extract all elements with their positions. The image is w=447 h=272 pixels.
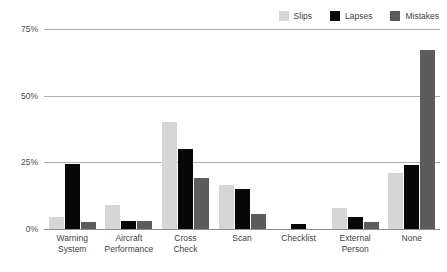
x-axis-label-line2: Performance	[102, 244, 157, 255]
chart-legend: Slips Lapses Mistakes	[279, 11, 439, 21]
y-axis-tick-75: 75%	[21, 24, 38, 34]
plot-area: 75%50%25%0%	[44, 29, 440, 229]
legend-swatch-mistakes	[390, 11, 400, 21]
x-axis-label: Scan	[214, 233, 271, 254]
bar-group	[157, 29, 214, 229]
bar-slips[interactable]	[332, 208, 347, 229]
bar-groups	[44, 29, 440, 229]
bar-lapses[interactable]	[348, 217, 363, 229]
bar-group	[44, 29, 101, 229]
bar-lapses[interactable]	[65, 164, 80, 229]
bar-mistakes[interactable]	[420, 50, 435, 229]
bar-lapses[interactable]	[235, 189, 250, 229]
bar-mistakes[interactable]	[194, 178, 209, 229]
legend-item-slips[interactable]: Slips	[279, 11, 312, 21]
bar-mistakes[interactable]	[251, 214, 266, 229]
bar-group	[327, 29, 384, 229]
bar-lapses[interactable]	[404, 165, 419, 229]
legend-item-lapses[interactable]: Lapses	[330, 11, 372, 21]
x-axis-label-line1: Scan	[215, 233, 270, 244]
x-axis-label-line1: Aircraft	[102, 233, 157, 244]
bar-lapses[interactable]	[178, 149, 193, 229]
x-axis-label-line1: External	[328, 233, 383, 244]
x-axis-label-line2: Person	[328, 244, 383, 255]
x-axis-labels: WarningSystemAircraftPerformanceCrossChe…	[44, 233, 440, 254]
x-axis-label-line1: Checklist	[271, 233, 326, 244]
bar-group	[101, 29, 158, 229]
bar-mistakes[interactable]	[81, 222, 96, 229]
bar-lapses[interactable]	[291, 224, 306, 229]
legend-swatch-lapses	[330, 11, 340, 21]
y-axis-tick-25: 25%	[21, 157, 38, 167]
x-axis-label-line1: None	[384, 233, 439, 244]
legend-label-slips: Slips	[294, 11, 312, 21]
bar-slips[interactable]	[105, 205, 120, 229]
bar-group	[214, 29, 271, 229]
legend-label-lapses: Lapses	[345, 11, 372, 21]
bar-slips[interactable]	[162, 122, 177, 229]
x-axis-label-line2: Check	[158, 244, 213, 255]
x-axis-label-line2: System	[45, 244, 100, 255]
y-axis-tick-0: 0%	[26, 224, 38, 234]
x-axis-label-line1: Cross	[158, 233, 213, 244]
bar-lapses[interactable]	[121, 221, 136, 229]
y-axis-tick-50: 50%	[21, 91, 38, 101]
x-axis-label: CrossCheck	[157, 233, 214, 254]
legend-label-mistakes: Mistakes	[405, 11, 439, 21]
x-axis-label: Checklist	[270, 233, 327, 254]
x-axis-label: None	[383, 233, 440, 254]
bar-chart: Slips Lapses Mistakes 75%50%25%0% Warnin…	[0, 0, 447, 272]
legend-swatch-slips	[279, 11, 289, 21]
legend-item-mistakes[interactable]: Mistakes	[390, 11, 439, 21]
x-axis-label: ExternalPerson	[327, 233, 384, 254]
bar-slips[interactable]	[388, 173, 403, 229]
bar-group	[270, 29, 327, 229]
bar-group	[383, 29, 440, 229]
bar-slips[interactable]	[219, 185, 234, 229]
bar-mistakes[interactable]	[137, 221, 152, 229]
bar-slips[interactable]	[49, 217, 64, 229]
x-axis-label: WarningSystem	[44, 233, 101, 254]
x-axis-label-line1: Warning	[45, 233, 100, 244]
gridline-0: 0%	[44, 229, 440, 230]
bar-mistakes[interactable]	[364, 222, 379, 229]
x-axis-label: AircraftPerformance	[101, 233, 158, 254]
